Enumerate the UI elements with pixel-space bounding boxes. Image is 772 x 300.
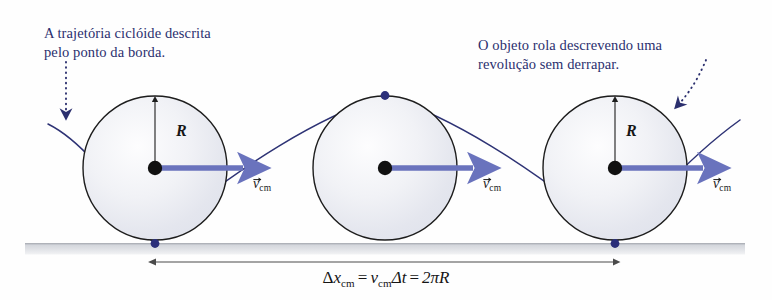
radius-label-3: R	[626, 122, 637, 140]
equation-equals-1: =	[355, 268, 371, 287]
dotted-arrow-curve-icon	[678, 60, 706, 105]
velocity-symbol-1: v	[253, 176, 259, 191]
center-dot-3	[608, 161, 622, 175]
rim-point-dot-2	[381, 91, 390, 100]
equation-v-subscript: cm	[378, 277, 392, 289]
velocity-subscript-1: cm	[259, 183, 271, 193]
displacement-equation: Δxcm=vcmΔt=2πR	[0, 268, 772, 289]
equation-v: v	[370, 268, 378, 287]
rim-point-dot-3	[611, 239, 620, 248]
center-dot-1	[148, 161, 162, 175]
rim-point-dot-1	[151, 239, 160, 248]
equation-x: x	[333, 268, 341, 287]
equation-x-subscript: cm	[341, 277, 355, 289]
rolling-circle-1	[83, 96, 243, 248]
vector-arrow-icon	[713, 176, 722, 183]
equation-result: 2πR	[422, 268, 449, 287]
equation-delta: Δ	[322, 268, 333, 287]
vector-arrow-icon	[253, 176, 262, 183]
velocity-subscript-2: cm	[489, 183, 501, 193]
ground-surface	[25, 244, 745, 255]
velocity-symbol-2: v	[483, 176, 489, 191]
vector-arrow-icon	[483, 176, 492, 183]
velocity-symbol-3: v	[713, 176, 719, 191]
equation-equals-2: =	[407, 268, 423, 287]
equation-delta-t: Δt	[392, 268, 407, 287]
annotation-cycloid-note: A trajetória ciclóide descrita pelo pont…	[44, 24, 211, 61]
radius-label-1: R	[176, 122, 187, 140]
rolling-cycloid-figure: A trajetória ciclóide descrita pelo pont…	[0, 0, 772, 300]
rolling-circle-3	[543, 96, 703, 248]
annotation-revolution-note: O objeto rola descrevendo uma revolução …	[478, 36, 662, 73]
velocity-subscript-3: cm	[719, 183, 731, 193]
velocity-label-3: vcm	[713, 176, 731, 193]
velocity-label-1: vcm	[253, 176, 271, 193]
rolling-circle-2	[313, 91, 473, 240]
center-dot-2	[378, 161, 392, 175]
velocity-label-2: vcm	[483, 176, 501, 193]
